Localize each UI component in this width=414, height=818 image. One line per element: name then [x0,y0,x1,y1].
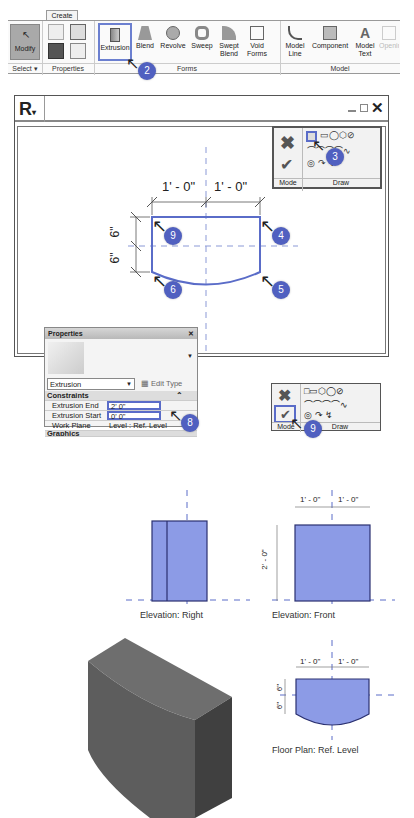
dimension-label: 1' - 0" [214,179,247,194]
dimension-label: 1' - 0" [338,657,358,666]
swept-blend-button[interactable]: Swept Blend [216,26,242,58]
work-plane-field: Level : Ref. Level [107,421,167,430]
model-line-button[interactable]: Model Line [282,26,308,58]
draw-label: Draw [302,178,380,186]
revolve-icon [166,26,180,40]
ribbon-body: ↖ Modify Select ▾ Properties Extrusion B… [8,20,400,74]
component-button[interactable]: Component [310,26,350,50]
title-bar: R▾ ✕ [15,96,388,122]
cancel-edit-mode-button[interactable]: ✖ [278,386,291,405]
family-types-icon[interactable] [48,24,64,40]
component-icon [323,26,337,40]
model-text-button[interactable]: A Model Text [352,26,378,58]
extrusion-icon [110,28,120,42]
dimension-label: 1' - 0" [162,179,195,194]
edit-type-button[interactable]: ▦ Edit Type [141,379,182,388]
step-badge-2: 2 [138,62,156,80]
properties-palette: Properties ✕ ▼ Extrusion ▼ ▦ Edit Type C… [44,327,198,427]
dimension-label: 1' - 0" [300,657,320,666]
result-views [0,480,414,818]
dimension-label: 2' - 0" [260,549,269,569]
step-badge-4: 4 [272,227,290,245]
dimension-label: 1' - 0" [300,495,320,504]
dimension-label: 1' - 0" [338,495,358,504]
panel-model-label: Model [280,63,400,74]
app-menu-button[interactable]: R▾ [15,96,45,122]
chevron-down-icon[interactable]: ▼ [187,353,193,359]
model-line-icon [288,26,302,40]
view-caption-floor-plan: Floor Plan: Ref. Level [272,745,359,755]
void-cube-icon [250,26,264,40]
sweep-icon [195,26,209,40]
blend-button[interactable]: Blend [134,26,156,50]
dimension-label: 6" [275,702,284,709]
extrusion-end-field[interactable]: 2' 0" [107,401,161,410]
minimize-icon[interactable] [348,110,356,112]
dimension-label: 6" [108,253,122,264]
restore-icon[interactable] [360,104,368,112]
step-badge-6: 6 [164,281,182,299]
cancel-edit-mode-button[interactable]: ✖ [280,132,295,154]
opening-icon [382,26,396,40]
mouse-cursor-icon: ↖ [312,136,325,155]
section-graphics[interactable]: Graphics [45,431,197,437]
model-text-icon: A [358,26,372,40]
view-caption-elevation-right: Elevation: Right [140,610,203,620]
draw-tools[interactable]: ▭◯⬡⊘ [320,130,355,140]
properties-panel-icons [46,24,90,60]
type-selector-dropdown[interactable]: Extrusion ▼ [47,378,135,390]
mouse-cursor-icon: ↖ [290,414,303,433]
draw-tools[interactable]: □▭⬡◯⊘ [304,386,344,396]
step-badge-8: 8 [181,414,199,432]
type-selector-row: Extrusion ▼ ▦ Edit Type [45,377,197,391]
step-badge-3: 3 [326,148,344,166]
swept-blend-icon [222,26,236,40]
family-category-icon[interactable] [70,24,86,40]
step-badge-5: 5 [272,281,290,299]
modify-button[interactable]: ↖ Modify [10,24,40,60]
revolve-button[interactable]: Revolve [158,26,188,50]
cursor-arrow-icon: ↖ [22,29,30,40]
ribbon: Create ↖ Modify Select ▾ Properties Extr… [8,10,408,74]
mode-draw-panel: ✖ ✔ ▭◯⬡⊘ ⌒⌒⌒⌒∿ ◎ ↷ ↯ Mode Draw ↖ 3 [272,126,382,189]
dimension-label: 6" [108,227,122,238]
close-icon[interactable]: ✕ [371,99,384,117]
dimension-label: 6" [275,684,284,691]
modify-label: Modify [15,45,36,52]
mode-label: Mode [274,178,302,186]
pick-tools[interactable]: ◎ ↷ ↯ [304,410,333,420]
type-preview: ▼ [45,339,197,377]
close-icon[interactable]: ✕ [188,328,197,339]
properties-icon[interactable] [48,43,64,59]
blend-icon [138,26,152,40]
sweep-button[interactable]: Sweep [189,26,215,50]
mode-draw-panel-finish: ✖ ✔ □▭⬡◯⊘ ⌒⌒⌒⌒∿ ◎ ↷ ↯ Mode Draw ↖ 9 [271,383,381,431]
panel-select-label[interactable]: Select ▾ [8,63,42,74]
view-caption-elevation-front: Elevation: Front [272,610,335,620]
family-preview-image [48,342,84,374]
extrusion-start-field[interactable]: 0' 0" [107,411,161,420]
panel-properties-label: Properties [42,63,94,74]
void-forms-button[interactable]: Void Forms [244,26,270,58]
step-badge-9: 9 [304,420,322,438]
type-properties-icon[interactable] [70,43,86,59]
properties-title-bar: Properties ✕ [45,328,197,339]
opening-button[interactable]: Opening [379,26,399,50]
step-badge-7: 9 [164,227,182,245]
app-window: R▾ ✕ 1' - 0" 1' - 0" [14,95,389,357]
finish-edit-mode-button[interactable]: ✔ [280,155,293,174]
section-constraints[interactable]: Constraints⌃ [45,391,197,401]
panel-forms-label: Forms [94,63,280,74]
